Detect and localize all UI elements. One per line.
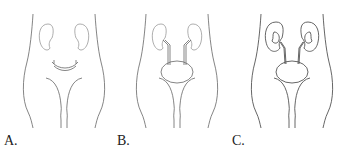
groin-left [274, 78, 289, 128]
groin-right [67, 78, 82, 128]
kidney-right [188, 24, 202, 50]
bladder [276, 61, 308, 83]
body-outline-right [95, 14, 105, 128]
ureter-left [280, 42, 286, 64]
kidney-left [152, 24, 166, 50]
renal-pelvis-right [305, 32, 312, 43]
groin-left [159, 78, 174, 128]
torso-diagram-b [113, 0, 228, 152]
body-outline-left [251, 14, 261, 128]
groin-right [180, 78, 195, 128]
panel-a: A. [0, 0, 115, 152]
groin-right [295, 78, 310, 128]
renal-pelvis-left [272, 32, 279, 43]
bladder-crescent [52, 60, 78, 71]
panel-label-c: C. [232, 133, 245, 149]
panel-c: C. [228, 0, 343, 152]
body-outline-left [23, 14, 33, 128]
panel-label-a: A. [4, 133, 18, 149]
ureter-left [163, 40, 170, 65]
ureter-right [184, 40, 191, 65]
kidney-left [265, 22, 283, 51]
kidney-left [39, 24, 53, 50]
kidney-right [75, 24, 89, 50]
ureter-right [298, 42, 304, 64]
groin-left [46, 78, 61, 128]
body-outline-right [208, 14, 218, 128]
body-outline-right [323, 14, 333, 128]
kidney-right [301, 22, 319, 51]
bladder [161, 61, 193, 83]
torso-diagram-c [228, 0, 343, 152]
body-outline-left [136, 14, 146, 128]
torso-diagram-a [0, 0, 115, 152]
panel-label-b: B. [117, 133, 130, 149]
panel-b: B. [113, 0, 228, 152]
